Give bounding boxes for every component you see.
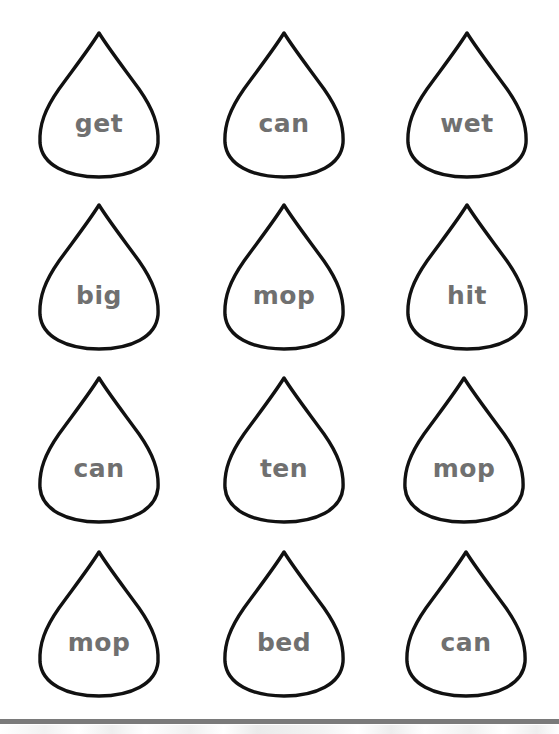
raindrop-card: bed: [222, 548, 346, 700]
raindrop-card: wet: [405, 29, 529, 181]
raindrop-card: mop: [37, 548, 161, 700]
sight-word: bed: [222, 626, 346, 660]
raindrop-card: hit: [405, 201, 529, 353]
sight-word: mop: [37, 626, 161, 660]
raindrop-card: mop: [222, 201, 346, 353]
raindrop-outline-icon: [222, 29, 346, 181]
raindrop-outline-icon: [222, 548, 346, 700]
raindrop-card: big: [37, 201, 161, 353]
sight-word: can: [37, 452, 161, 486]
raindrop-card: can: [222, 29, 346, 181]
sight-word: mop: [402, 452, 526, 486]
footer-watermark: [0, 725, 559, 734]
raindrop-card: mop: [402, 374, 526, 526]
raindrop-card: can: [404, 548, 528, 700]
raindrop-outline-icon: [222, 201, 346, 353]
sight-word: ten: [222, 452, 346, 486]
raindrop-outline-icon: [404, 548, 528, 700]
sight-word: get: [37, 107, 161, 141]
raindrop-outline-icon: [405, 201, 529, 353]
raindrop-outline-icon: [222, 374, 346, 526]
footer-divider: [0, 719, 559, 724]
worksheet-page: get can wet big mop hit ca: [0, 0, 559, 734]
raindrop-outline-icon: [37, 201, 161, 353]
sight-word: mop: [222, 279, 346, 313]
sight-word: wet: [405, 107, 529, 141]
raindrop-card: ten: [222, 374, 346, 526]
raindrop-outline-icon: [402, 374, 526, 526]
sight-word: big: [37, 279, 161, 313]
sight-word: hit: [405, 279, 529, 313]
sight-word: can: [404, 626, 528, 660]
raindrop-outline-icon: [37, 29, 161, 181]
raindrop-card: can: [37, 374, 161, 526]
raindrop-outline-icon: [37, 374, 161, 526]
raindrop-outline-icon: [37, 548, 161, 700]
sight-word: can: [222, 107, 346, 141]
raindrop-outline-icon: [405, 29, 529, 181]
raindrop-card: get: [37, 29, 161, 181]
